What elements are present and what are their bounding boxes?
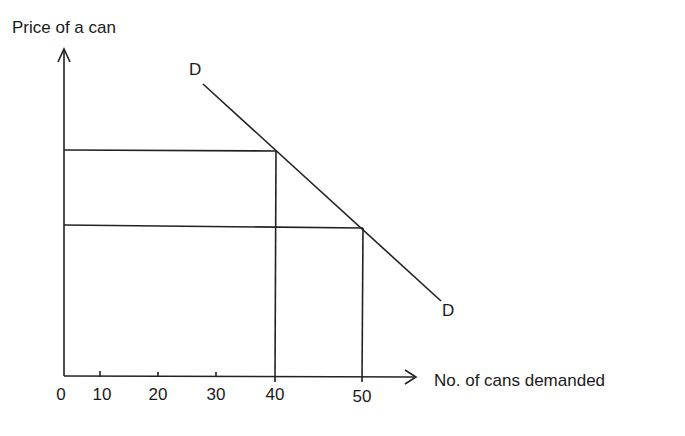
demand-label-start: D (189, 60, 201, 80)
demand-label-end: D (442, 301, 454, 321)
quantity-line-40 (275, 151, 276, 382)
x-tick-50: 50 (353, 387, 372, 407)
price-line-low (64, 225, 363, 228)
price-line-high (64, 150, 276, 151)
x-tick-40: 40 (266, 385, 285, 405)
x-tick-20: 20 (149, 385, 168, 405)
demand-curve (203, 84, 441, 301)
x-tick-0: 0 (56, 385, 65, 405)
x-tick-30: 30 (207, 385, 226, 405)
x-axis-label: No. of cans demanded (434, 371, 605, 391)
y-axis-label: Price of a can (12, 18, 116, 38)
x-tick-10: 10 (93, 385, 112, 405)
quantity-line-50 (362, 228, 363, 382)
